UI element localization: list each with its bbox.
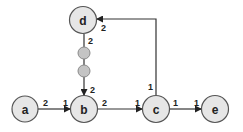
port-label-a-out: 2: [43, 98, 48, 108]
node-e-label: e: [212, 103, 219, 117]
port-label-d-out: 2: [88, 36, 93, 46]
node-b-label: b: [80, 103, 87, 117]
port-label-c-out-d: 1: [148, 82, 153, 92]
waypoint-1[interactable]: [78, 47, 90, 59]
node-a[interactable]: a: [12, 96, 38, 122]
node-c-label: c: [153, 103, 160, 117]
port-label-b-out: 2: [102, 98, 107, 108]
node-c[interactable]: c: [143, 96, 170, 123]
port-label-b-in-from-a: 1: [63, 98, 68, 108]
node-e[interactable]: e: [202, 96, 229, 123]
port-label-d-in: 2: [101, 23, 106, 33]
port-label-b-in-from-d: 2: [90, 85, 95, 95]
node-a-label: a: [22, 103, 29, 117]
node-b[interactable]: b: [71, 96, 98, 123]
graph-canvas: a b c e d 2 1 2 1 1 1 1 2 2 2: [0, 0, 243, 132]
waypoint-2[interactable]: [78, 65, 90, 77]
node-d[interactable]: d: [70, 7, 97, 34]
port-label-c-in: 1: [135, 98, 140, 108]
port-label-e-in: 1: [194, 98, 199, 108]
port-label-c-out-e: 1: [173, 98, 178, 108]
node-d-label: d: [79, 14, 86, 28]
